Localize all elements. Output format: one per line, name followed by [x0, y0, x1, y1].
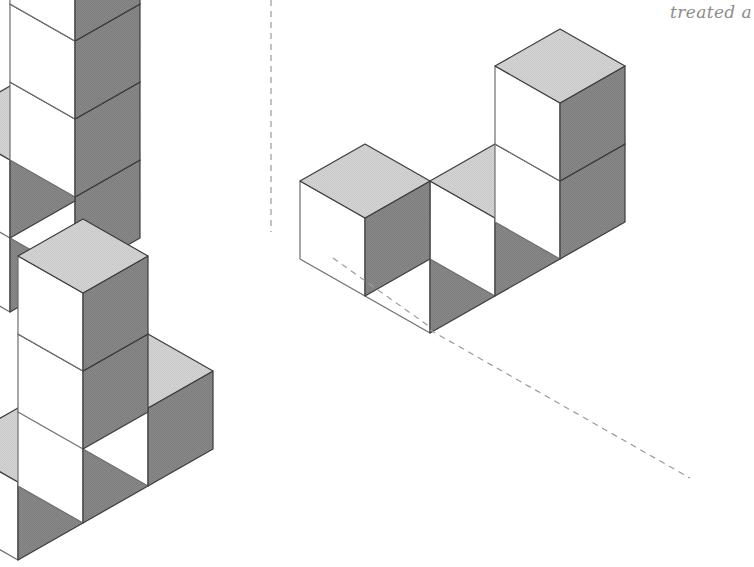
cube-figures-group	[0, 0, 625, 560]
handwritten-annotation: treated a	[670, 2, 752, 22]
figure-middle	[0, 219, 213, 560]
isometric-cube-diagram	[0, 0, 754, 567]
guide-diagonal-dashed-lower	[430, 330, 690, 478]
diagram-page: treated a	[0, 0, 754, 567]
figure-right	[300, 29, 625, 333]
